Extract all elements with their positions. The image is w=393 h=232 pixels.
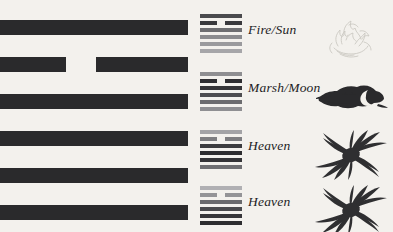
- solid-line: [200, 35, 242, 39]
- chart-row: Marsh/Moon: [196, 68, 393, 126]
- mini-hexagram: [200, 72, 242, 114]
- large-hexagram-line-1: [0, 20, 188, 35]
- broken-line-right: [96, 57, 188, 72]
- swirl-burst-icon: [312, 126, 390, 184]
- solid-line: [200, 186, 242, 190]
- chart-page: Fire/Sun: [0, 0, 393, 232]
- solid-line: [200, 207, 242, 211]
- mini-hexagram: [200, 130, 242, 172]
- broken-line-right: [225, 21, 242, 25]
- solid-line: [200, 14, 242, 18]
- solid-line: [0, 20, 188, 35]
- solid-line: [200, 42, 242, 46]
- solid-line: [200, 93, 242, 97]
- solid-line: [200, 130, 242, 134]
- cloud-moon-icon: [312, 68, 390, 126]
- large-hexagram-line-3: [0, 94, 188, 109]
- large-hexagram-line-4: [0, 131, 188, 146]
- solid-line: [0, 168, 188, 183]
- broken-line-left: [200, 21, 217, 25]
- solid-line: [0, 205, 188, 220]
- broken-line-right: [225, 79, 242, 83]
- solid-line: [200, 221, 242, 225]
- solid-line: [200, 144, 242, 148]
- large-hexagram-line-5: [0, 168, 188, 183]
- chart-row: Fire/Sun: [196, 10, 393, 68]
- solid-line: [200, 86, 242, 90]
- large-hexagram: [0, 0, 196, 232]
- solid-line: [0, 94, 188, 109]
- large-hexagram-line-2: [0, 57, 188, 72]
- solid-line: [200, 165, 242, 169]
- solid-line: [0, 131, 188, 146]
- solid-line: [200, 214, 242, 218]
- solid-line: [200, 151, 242, 155]
- broken-line-right: [225, 193, 242, 197]
- row-label: Heaven: [248, 138, 290, 154]
- solid-line: [200, 28, 242, 32]
- solid-line: [200, 72, 242, 76]
- mini-hexagram: [200, 14, 242, 56]
- row-label: Heaven: [248, 194, 290, 210]
- broken-line-left: [200, 137, 217, 141]
- broken-line-right: [225, 137, 242, 141]
- broken-line-left: [0, 57, 66, 72]
- solid-line: [200, 49, 242, 53]
- swirl-burst-icon: [312, 182, 390, 232]
- chart-row: Heaven: [196, 126, 393, 184]
- solid-line: [200, 158, 242, 162]
- solid-line: [200, 107, 242, 111]
- broken-line-left: [200, 79, 217, 83]
- mini-hexagram: [200, 186, 242, 228]
- chart-row: Heaven: [196, 182, 393, 232]
- solid-line: [200, 100, 242, 104]
- row-label: Fire/Sun: [248, 22, 296, 38]
- solid-line: [200, 200, 242, 204]
- large-hexagram-line-6: [0, 205, 188, 220]
- flame-icon: [312, 10, 390, 68]
- row-label: Marsh/Moon: [248, 80, 321, 96]
- broken-line-left: [200, 193, 217, 197]
